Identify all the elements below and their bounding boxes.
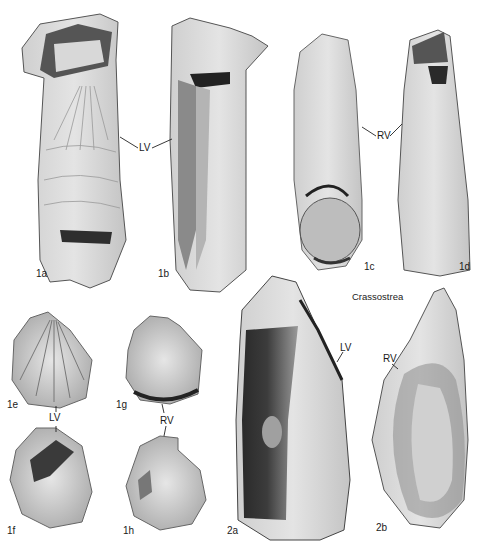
specimen-2b [372, 288, 468, 528]
specimen-1f [10, 428, 92, 528]
valve-label-rv-top: RV [377, 131, 391, 141]
specimen-1c [294, 34, 362, 270]
figure-label-1h: 1h [123, 526, 134, 536]
figure-label-1e: 1e [7, 400, 18, 410]
figure-label-1b: 1b [158, 269, 169, 279]
valve-label-lv-top: LV [139, 143, 151, 153]
figure-label-1d: 1d [459, 262, 470, 272]
valve-label-rv-large: RV [383, 354, 397, 364]
fossil-plate: 1a 1b 1c 1d 1e 1f 1g 1h 2a 2b LV RV LV R… [0, 0, 491, 556]
figure-label-2a: 2a [227, 526, 238, 536]
figure-label-1c: 1c [364, 262, 375, 272]
figure-label-1f: 1f [7, 526, 15, 536]
valve-label-rv-small: RV [160, 416, 174, 426]
plate-illustration [0, 0, 491, 556]
specimen-1h [126, 436, 206, 530]
figure-label-2b: 2b [376, 523, 387, 533]
specimen-1b [170, 18, 268, 292]
genus-label: Crassostrea [352, 291, 403, 302]
specimen-1d [398, 30, 470, 276]
specimen-1g [126, 316, 202, 404]
valve-label-lv-large: LV [340, 343, 352, 353]
figure-label-1a: 1a [36, 269, 47, 279]
valve-label-lv-small: LV [49, 413, 61, 423]
figure-label-1g: 1g [116, 400, 127, 410]
specimen-1e [12, 312, 92, 408]
specimen-2a [236, 276, 350, 540]
specimen-1a [22, 14, 126, 288]
